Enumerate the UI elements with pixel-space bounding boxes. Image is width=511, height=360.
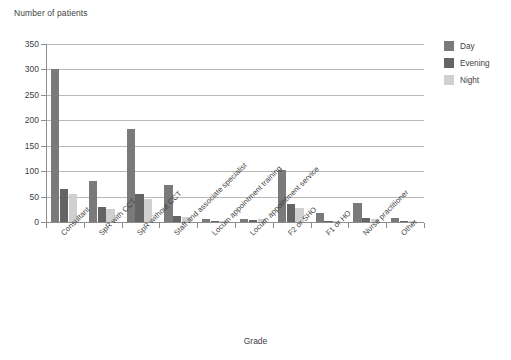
y-axis-tick-label: 350 [3,39,39,49]
x-axis-tick [273,223,274,228]
y-axis-tick-label: 200 [3,115,39,125]
legend: DayEveningNight [444,41,490,85]
bar [295,208,303,222]
bar [127,129,135,222]
legend-swatch-icon [444,58,454,68]
bar [316,213,324,222]
x-axis-tick [311,223,312,228]
y-axis-tick-label: 0 [3,217,39,227]
legend-label: Day [460,42,475,51]
x-axis-tick [84,223,85,228]
y-axis-title: Number of patients [14,8,88,18]
bar [287,204,295,222]
y-axis-tick-label: 100 [3,166,39,176]
x-axis-tick [348,223,349,228]
bar [51,69,59,222]
bar [353,203,361,222]
legend-label: Evening [460,59,490,68]
legend-swatch-icon [444,75,454,85]
x-axis-tick [235,223,236,228]
x-axis-tick [122,223,123,228]
bar [144,199,152,222]
y-axis-tick-label: 50 [3,192,39,202]
legend-item: Day [444,41,490,51]
bar [106,209,114,222]
legend-item: Evening [444,58,490,68]
y-axis-tick-label: 150 [3,141,39,151]
x-axis-tick [197,223,198,228]
y-axis-tick-label: 250 [3,90,39,100]
bar [69,194,77,222]
bar [135,194,143,222]
x-axis-tick [46,223,47,228]
y-axis-tick-labels: 050100150200250300350 [0,44,39,223]
legend-label: Night [460,76,479,85]
legend-swatch-icon [444,41,454,51]
x-axis-tick [386,223,387,228]
bar [278,170,286,222]
legend-item: Night [444,75,490,85]
bar [98,207,106,222]
bar [164,185,172,222]
bar-chart: Number of patients 050100150200250300350… [0,0,511,360]
x-axis-tick [424,223,425,228]
x-axis-title: Grade [0,336,511,346]
y-axis-tick-label: 300 [3,64,39,74]
bar [60,189,68,222]
x-axis-tick [159,223,160,228]
bars-layer [46,44,424,222]
bar [89,181,97,222]
